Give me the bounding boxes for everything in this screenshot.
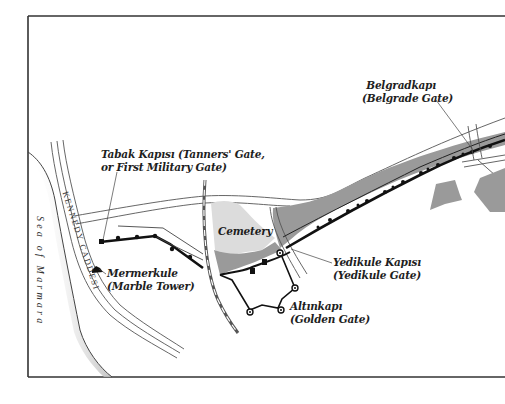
cemetery-label: Cemetery <box>218 225 272 237</box>
label-cemetery: Cemetery <box>218 225 272 238</box>
mermerkule-subtitle: (Marble Tower) <box>107 280 195 293</box>
label-yedikule-kapisi: Yedikule Kapısı (Yedikule Gate) <box>333 256 421 281</box>
city-block-2 <box>474 168 505 212</box>
sea-label-text: Sea of Marmara <box>35 216 46 326</box>
map-canvas <box>0 0 505 404</box>
belgradkapi-subtitle: (Belgrade Gate) <box>362 92 436 105</box>
sea-walls-west <box>99 226 203 268</box>
label-belgradkapi: Belgradkapı (Belgrade Gate) <box>362 79 436 104</box>
altinkapi-name: Altınkapı <box>290 300 370 313</box>
yedikule-kapisi-subtitle: (Yedikule Gate) <box>333 269 421 282</box>
mermerkule-name: Mermerkule <box>107 267 195 280</box>
tabak-kapisi-subtitle: or First Military Gate) <box>101 161 265 174</box>
city-block-1 <box>430 180 462 210</box>
belgradkapi-name: Belgradkapı <box>362 79 436 92</box>
altinkapi-subtitle: (Golden Gate) <box>290 313 370 326</box>
label-sea-of-marmara: Sea of Marmara <box>35 216 46 326</box>
tabak-kapisi-name: Tabak Kapısı (Tanners' Gate, <box>101 148 265 161</box>
label-tabak-kapisi: Tabak Kapısı (Tanners' Gate, or First Mi… <box>101 148 265 173</box>
label-mermerkule: Mermerkule (Marble Tower) <box>107 267 195 292</box>
label-altinkapi: Altınkapı (Golden Gate) <box>290 300 370 325</box>
yedikule-kapisi-name: Yedikule Kapısı <box>333 256 421 269</box>
